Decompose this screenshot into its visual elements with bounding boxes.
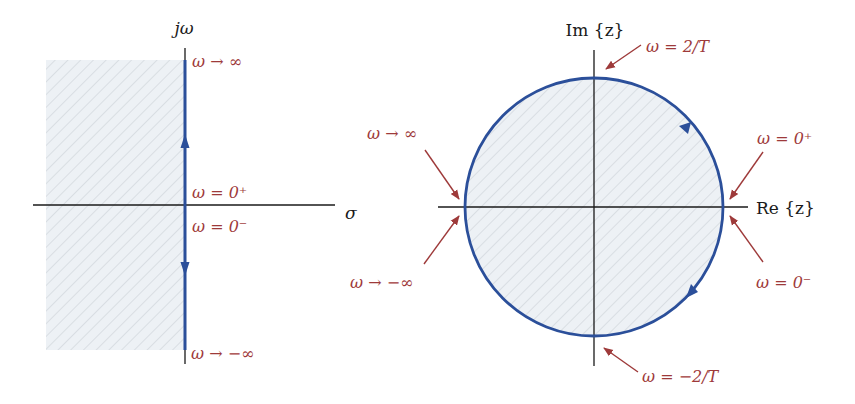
pointer-right-upper [730, 152, 763, 199]
pointer-right-lower [730, 216, 763, 262]
im-axis-label: Im {z} [566, 20, 625, 40]
pointer-left-upper [425, 150, 459, 199]
label-z-neg2overT: ω = −2/T [642, 367, 720, 386]
label-omega-inf: ω → ∞ [192, 52, 242, 71]
pointer-bottom [604, 348, 638, 372]
jw-axis-label: jω [170, 18, 193, 38]
z-plane [424, 45, 763, 372]
label-omega-0minus: ω = 0⁻ [192, 217, 247, 236]
pointer-left-lower [424, 216, 459, 264]
re-axis-label: Re {z} [756, 198, 815, 218]
label-omega-0plus: ω = 0⁺ [192, 183, 247, 202]
label-z-2overT: ω = 2/T [646, 37, 710, 56]
label-z-inf: ω → ∞ [367, 124, 417, 143]
sigma-axis-label: σ [345, 203, 357, 223]
label-z-neginf: ω → −∞ [350, 273, 413, 292]
label-z-0plus: ω = 0⁺ [757, 129, 812, 148]
label-z-0minus: ω = 0⁻ [756, 273, 811, 292]
label-omega-neginf: ω → −∞ [191, 344, 254, 363]
diagram-canvas: jω σ ω → ∞ ω = 0⁺ ω = 0⁻ ω → −∞ Im {z} R… [0, 0, 855, 404]
s-plane [33, 48, 335, 364]
pointer-top [606, 45, 641, 69]
